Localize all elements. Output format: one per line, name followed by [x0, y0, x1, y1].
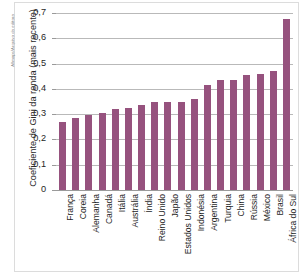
bar [99, 113, 106, 190]
bar [204, 85, 211, 190]
x-axis-tick-label: Turquia [224, 194, 233, 223]
plot-area: 0,70,60,50,40,30,20,10 [56, 13, 293, 190]
y-axis-tick-label: 0,2 [0, 133, 46, 143]
x-axis-tick-label: Argentina [210, 194, 219, 231]
bar [270, 71, 277, 190]
x-axis-tick-label: Coreia [79, 194, 88, 219]
bar [151, 102, 158, 191]
y-axis-tick-label: 0,5 [0, 57, 46, 67]
bar [72, 118, 79, 190]
x-axis-tick-label: Itália [118, 194, 127, 212]
bar [191, 99, 198, 190]
bar [257, 74, 264, 190]
figure-container: Allmaps/Arquivo da editora Coeficiente d… [0, 0, 301, 277]
y-axis-tick-mark [52, 38, 56, 39]
bar [243, 75, 250, 190]
x-axis-tick-label: México [263, 194, 272, 221]
bar [217, 80, 224, 190]
x-axis-tick-label: Índia [145, 194, 154, 213]
bar [230, 80, 237, 190]
bar [112, 109, 119, 190]
y-axis-tick-mark [52, 89, 56, 90]
gridline [56, 38, 293, 39]
x-axis-tick-label: Canadá [105, 194, 114, 224]
x-axis-tick-label: Indonésia [197, 194, 206, 231]
y-axis-tick-mark [52, 114, 56, 115]
bar [283, 19, 290, 190]
y-axis-tick-label: 0 [0, 184, 46, 194]
x-axis-tick-label: Japão [171, 194, 180, 217]
x-axis-tick-label: Rússia [250, 194, 259, 220]
x-axis-tick-label: Alemanha [92, 194, 101, 233]
y-axis-tick-mark [52, 190, 56, 191]
x-axis-tick-label: Reino Unido [158, 194, 167, 241]
axis-baseline [56, 190, 293, 191]
y-axis-tick-mark [52, 13, 56, 14]
bar [178, 102, 185, 191]
x-axis-tick-label: China [237, 194, 246, 216]
y-axis-tick-label: 0,7 [0, 7, 46, 17]
x-axis-tick-label: Estados Unidos [184, 194, 193, 254]
gridline [56, 64, 293, 65]
x-axis-tick-label: Brasil [276, 194, 285, 216]
y-axis-tick-mark [52, 165, 56, 166]
y-axis-tick-label: 0,4 [0, 82, 46, 92]
bar [85, 115, 92, 190]
y-axis-tick-mark [52, 64, 56, 65]
bar [138, 105, 145, 190]
x-axis-tick-label: França [66, 194, 75, 221]
y-axis-tick-label: 0,3 [0, 108, 46, 118]
x-axis-labels: FrançaCoreiaAlemanhaCanadáItáliaAustráli… [56, 194, 293, 274]
bar [59, 122, 66, 190]
gridline [56, 13, 293, 14]
y-axis-tick-label: 0,6 [0, 32, 46, 42]
bar [164, 102, 171, 191]
y-axis-tick-mark [52, 139, 56, 140]
x-axis-tick-label: África do Sul [289, 194, 298, 243]
bar [125, 108, 132, 190]
x-axis-tick-label: Austrália [131, 194, 140, 227]
y-axis-tick-label: 0,1 [0, 158, 46, 168]
